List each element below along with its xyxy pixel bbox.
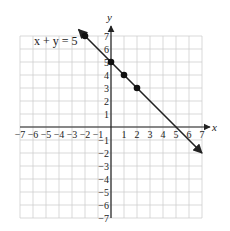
svg-text:−5: −5 bbox=[41, 129, 52, 140]
coordinate-plane: −7−6−5−4−3−2−112345677654321−1−2−3−4−5−6… bbox=[0, 0, 230, 231]
y-axis-label: y bbox=[106, 11, 112, 23]
svg-text:5: 5 bbox=[174, 129, 179, 140]
svg-text:−7: −7 bbox=[15, 129, 26, 140]
svg-text:6: 6 bbox=[104, 44, 109, 55]
svg-text:−6: −6 bbox=[98, 200, 109, 211]
svg-text:3: 3 bbox=[148, 129, 153, 140]
svg-text:−2: −2 bbox=[98, 148, 109, 159]
svg-text:−4: −4 bbox=[54, 129, 65, 140]
svg-text:2: 2 bbox=[104, 96, 109, 107]
x-axis-label: x bbox=[211, 121, 217, 133]
svg-text:7: 7 bbox=[104, 31, 109, 42]
svg-text:1: 1 bbox=[122, 129, 127, 140]
svg-text:7: 7 bbox=[200, 129, 205, 140]
svg-text:4: 4 bbox=[161, 129, 166, 140]
equation-label: x + y = 5 bbox=[34, 34, 78, 48]
svg-text:3: 3 bbox=[104, 83, 109, 94]
svg-text:−3: −3 bbox=[98, 161, 109, 172]
svg-text:2: 2 bbox=[135, 129, 140, 140]
svg-text:1: 1 bbox=[104, 109, 109, 120]
svg-text:−7: −7 bbox=[98, 213, 109, 224]
svg-text:−5: −5 bbox=[98, 187, 109, 198]
svg-text:−3: −3 bbox=[67, 129, 78, 140]
axes bbox=[20, 26, 210, 218]
svg-text:4: 4 bbox=[104, 70, 109, 81]
svg-text:−4: −4 bbox=[98, 174, 109, 185]
svg-text:−1: −1 bbox=[98, 135, 109, 146]
svg-text:−6: −6 bbox=[28, 129, 39, 140]
svg-text:−2: −2 bbox=[80, 129, 91, 140]
